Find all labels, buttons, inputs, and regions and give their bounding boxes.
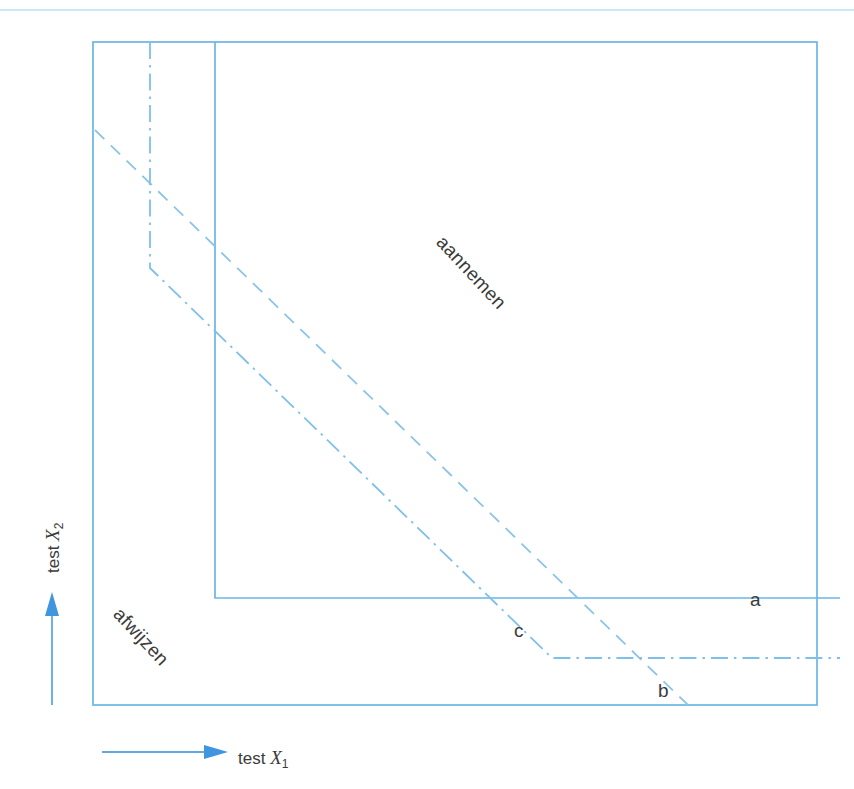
x-axis-subscript: 1 (282, 757, 289, 771)
figure-container: aannemen afwijzen a b c test X1 test X2 (0, 0, 854, 789)
x-axis-label: test X1 (238, 747, 288, 771)
y-axis-label-prefix: test (44, 541, 63, 573)
curve-c (150, 42, 840, 658)
curve-label-a: a (750, 590, 761, 609)
x-axis-symbol: X (270, 747, 282, 768)
y-axis-arrow (45, 592, 59, 705)
y-axis-label: test X2 (42, 523, 66, 573)
x-axis-label-prefix: test (238, 749, 270, 768)
y-axis-subscript: 2 (52, 523, 66, 530)
plot-frame (93, 42, 817, 705)
curve-a (215, 42, 840, 598)
curve-label-c: c (514, 621, 524, 640)
y-axis-symbol: X (42, 529, 63, 541)
plot-canvas (0, 0, 854, 789)
curve-b (95, 130, 690, 707)
x-axis-arrow (102, 745, 228, 759)
curve-label-b: b (658, 681, 669, 700)
